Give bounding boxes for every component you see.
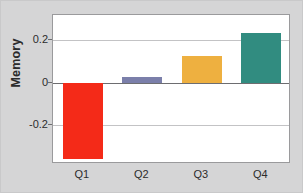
y-axis-tick-label: 0.2 <box>8 33 48 45</box>
bar-q1 <box>63 83 103 160</box>
plot-area <box>52 14 290 163</box>
bar-q3 <box>182 56 222 83</box>
x-axis-tick-label: Q3 <box>176 168 226 180</box>
x-axis-tick-label: Q1 <box>57 168 107 180</box>
y-axis-tick-label: -0.2 <box>8 118 48 130</box>
bar-q2 <box>122 77 162 82</box>
bar-chart-figure: Memory 0.20-0.2 Q1Q2Q3Q4 <box>0 0 303 193</box>
plot-inner <box>53 15 289 162</box>
x-axis-tick-label: Q2 <box>116 168 166 180</box>
y-axis-tick-label: 0 <box>8 76 48 88</box>
bar-q4 <box>241 33 281 83</box>
x-axis-tick-label: Q4 <box>235 168 285 180</box>
